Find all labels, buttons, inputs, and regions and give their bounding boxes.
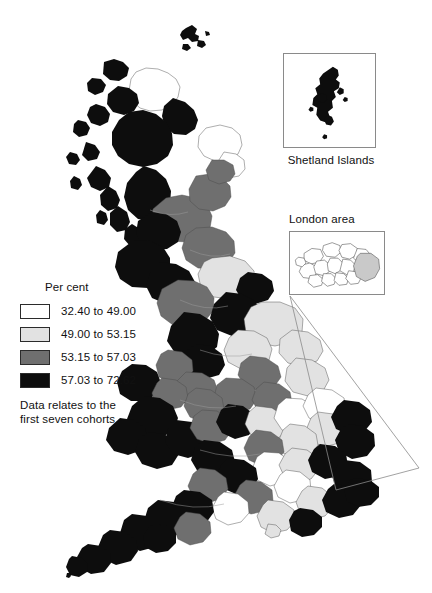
london-inset-box <box>289 231 385 295</box>
shetland-inset-box <box>283 53 376 148</box>
map-legend: Per cent 32.40 to 49.00 49.00 to 53.15 5… <box>20 281 180 426</box>
london-inset-label: London area <box>289 213 355 225</box>
legend-row: 32.40 to 49.00 <box>20 302 180 320</box>
legend-label-class-3: 53.15 to 57.03 <box>61 351 136 363</box>
shetland-inset-label: Shetland Islands <box>277 154 385 166</box>
legend-title: Per cent <box>45 281 180 293</box>
london-inset-map <box>290 232 384 294</box>
legend-note-line-1: Data relates to the <box>20 398 170 412</box>
region-group-orkney <box>180 25 210 51</box>
legend-note-line-2: first seven cohorts <box>20 412 170 426</box>
legend-row: 57.03 to 72.62 <box>20 371 180 389</box>
legend-swatch-class-4 <box>20 373 50 388</box>
legend-swatch-class-1 <box>20 304 50 319</box>
legend-swatch-class-3 <box>20 350 50 365</box>
legend-note: Data relates to the first seven cohorts <box>20 398 170 426</box>
legend-swatch-class-2 <box>20 327 50 342</box>
legend-row: 53.15 to 57.03 <box>20 348 180 366</box>
london-inset-shaded-area <box>353 253 379 281</box>
legend-label-class-1: 32.40 to 49.00 <box>61 305 136 317</box>
shetland-inset-map <box>284 54 375 147</box>
figure-canvas: .c0 { fill: #ffffff; } .c1 { fill: #e2e2… <box>0 0 432 593</box>
legend-label-class-2: 49.00 to 53.15 <box>61 328 136 340</box>
legend-row: 49.00 to 53.15 <box>20 325 180 343</box>
legend-label-class-4: 57.03 to 72.62 <box>61 374 136 386</box>
